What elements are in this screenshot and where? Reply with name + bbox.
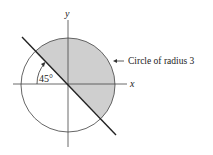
diagram: 45° Circle of radius 3 x y: [0, 0, 213, 155]
label-arrow-icon: [113, 59, 117, 63]
angle-label: 45°: [39, 73, 53, 84]
angle-arrow-icon: [41, 62, 45, 67]
circle-label: Circle of radius 3: [128, 56, 194, 66]
y-axis-label: y: [64, 8, 70, 19]
x-axis-label: x: [129, 78, 135, 89]
